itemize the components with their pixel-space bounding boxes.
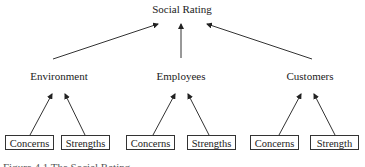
- category-employees: Employees: [157, 70, 206, 82]
- category-customers: Customers: [286, 70, 333, 82]
- category-environment: Environment: [30, 70, 87, 82]
- employees-concerns-box: Concerns: [126, 135, 175, 150]
- environment-concerns-box: Concerns: [5, 135, 54, 150]
- figure-caption: Figure 4.1 The Social Rating: [3, 161, 130, 167]
- customers-strength-box: Strength: [310, 135, 359, 150]
- environment-strengths-box: Strengths: [61, 135, 110, 150]
- customers-concerns-box: Concerns: [250, 135, 299, 150]
- employees-strengths-box: Strengths: [187, 135, 236, 150]
- root-node-label: Social Rating: [152, 3, 212, 15]
